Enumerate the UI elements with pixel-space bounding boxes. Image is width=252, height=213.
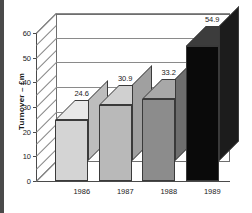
x-category-label: 1989	[185, 187, 239, 196]
plot-area: 0102030405060 24.630.933.254.9 198619871…	[36, 14, 244, 182]
bar-value-label: 54.9	[182, 15, 242, 24]
y-tick-label: 20	[23, 127, 31, 136]
y-minor-tick-mark	[36, 13, 57, 34]
bar	[99, 105, 132, 181]
y-tick-label: 60	[23, 29, 31, 38]
y-axis-title: Turnover – £m	[17, 50, 26, 154]
y-tick-label: 40	[23, 78, 31, 87]
bar-front-face	[55, 120, 88, 181]
bar	[55, 120, 88, 181]
bar-front-face	[142, 99, 175, 181]
y-tick-label: 0	[27, 177, 31, 186]
bar-chart-figure: Turnover – £m 0102030405060 24.630.933.2…	[0, 0, 252, 213]
y-tick-label: 50	[23, 53, 31, 62]
y-tick-label: 30	[23, 103, 31, 112]
y-tick-label: 10	[23, 152, 31, 161]
bar	[142, 99, 175, 181]
x-axis-line	[36, 181, 230, 182]
bar-front-face	[99, 105, 132, 181]
bar-side-face	[219, 6, 239, 161]
bar-value-label: 24.6	[52, 89, 112, 98]
bar	[186, 46, 219, 181]
bar-front-face	[186, 46, 219, 181]
